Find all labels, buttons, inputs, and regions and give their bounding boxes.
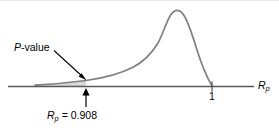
p-value-rest-text: -value: [21, 41, 50, 53]
rp-value-number: = 0.908: [59, 109, 97, 121]
rp-value-base: R: [47, 109, 55, 121]
axis-label-subscript: p: [266, 84, 270, 93]
p-value-annotation-label: P-value: [14, 42, 50, 53]
p-value-leader-line: [54, 51, 83, 78]
p-value-italic-p: P: [14, 41, 21, 53]
statistical-distribution-figure: P-value 1 Rp Rp = 0.908: [0, 0, 279, 132]
distribution-curve: [35, 10, 212, 85]
x-axis-title: Rp: [258, 80, 270, 93]
x-axis-tick-label-1: 1: [209, 91, 215, 102]
rp-value-arrowhead: [82, 88, 89, 96]
rp-observed-value-label: Rp = 0.908: [47, 110, 97, 123]
distribution-plot-svg: [0, 0, 279, 132]
axis-label-base: R: [258, 79, 266, 91]
